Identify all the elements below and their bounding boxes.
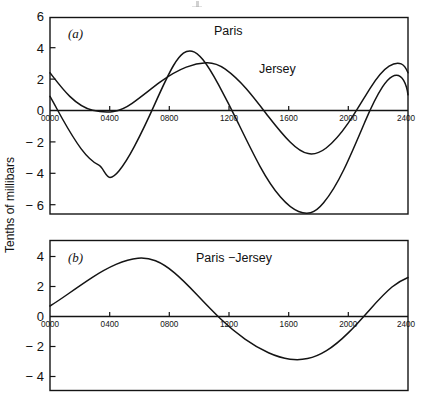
panel-b-ytick-m4: − 4 — [26, 369, 44, 384]
panel-b-xtick-0800: 0800 — [160, 320, 179, 329]
panel-a-ytick-6: 6 — [37, 9, 44, 24]
panel-a-ytick-2: 2 — [37, 72, 44, 87]
panel-a-xtick-2400: 2400 — [397, 114, 416, 123]
panel-a-xtick-1600: 1600 — [280, 114, 299, 123]
panel-a-xtick-0800: 0800 — [160, 114, 179, 123]
panel-a-ytick-4: 4 — [37, 41, 44, 56]
pressure-variation-chart: 6 4 2 0 − 2 − 4 − 6 0000 0400 0800 1200 … — [0, 0, 425, 404]
panel-b-xtick-0000: 0000 — [41, 320, 60, 329]
panel-b-xtick-0400: 0400 — [101, 320, 120, 329]
label-jersey: Jersey — [259, 62, 297, 76]
curve-paris — [50, 51, 408, 213]
curve-diff — [50, 258, 408, 360]
panel-b-ytick-4: 4 — [37, 249, 44, 264]
panel-b-xtick-1600: 1600 — [280, 320, 299, 329]
panel-a-y-ticks — [50, 48, 56, 205]
panel-b-ytick-2: 2 — [37, 279, 44, 294]
panel-b-xtick-2000: 2000 — [339, 320, 358, 329]
y-axis-title: Tenths of millibars — [3, 157, 17, 253]
panel-a-xtick-0000: 0000 — [41, 114, 60, 123]
panel-a-ytick-m2: − 2 — [26, 135, 44, 150]
panel-a-xtick-0400: 0400 — [101, 114, 120, 123]
figure-container: 6 4 2 0 − 2 − 4 − 6 0000 0400 0800 1200 … — [0, 0, 425, 404]
panel-b-tag: (b) — [68, 250, 83, 265]
panel-a-ytick-m4: − 4 — [26, 166, 44, 181]
panel-b-ytick-m2: − 2 — [26, 339, 44, 354]
panel-a: 6 4 2 0 − 2 − 4 − 6 0000 0400 0800 1200 … — [26, 9, 416, 214]
label-paris-minus-jersey: Paris −Jersey — [196, 251, 273, 265]
label-paris: Paris — [214, 24, 242, 38]
panel-a-xtick-2000: 2000 — [339, 114, 358, 123]
scan-artifact — [192, 1, 202, 7]
panel-a-tag: (a) — [68, 26, 83, 41]
panel-a-ytick-m6: − 6 — [26, 198, 44, 213]
panel-b-xtick-2400: 2400 — [397, 320, 416, 329]
